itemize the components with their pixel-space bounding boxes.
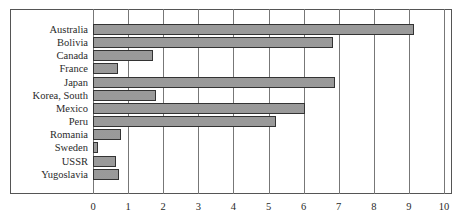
category-label: Bolivia xyxy=(57,36,88,49)
x-tick-label: 0 xyxy=(83,201,103,212)
gridline xyxy=(374,9,375,194)
bar-yugoslavia xyxy=(93,169,119,180)
category-label: Sweden xyxy=(55,141,88,154)
category-label: Canada xyxy=(57,49,89,62)
bar-france xyxy=(93,63,118,74)
x-tick-label: 8 xyxy=(364,201,384,212)
bar-bolivia xyxy=(93,37,333,48)
bar-ussr xyxy=(93,156,116,167)
x-tick-label: 10 xyxy=(434,201,454,212)
x-tick-label: 2 xyxy=(153,201,173,212)
x-tick-label: 9 xyxy=(399,201,419,212)
category-label: USSR xyxy=(62,155,88,168)
category-label: Yugoslavia xyxy=(41,168,88,181)
bar-mexico xyxy=(93,103,305,114)
x-tick-label: 1 xyxy=(118,201,138,212)
category-label: France xyxy=(59,62,88,75)
bar-canada xyxy=(93,50,153,61)
bar-australia xyxy=(93,24,414,35)
x-tick-label: 3 xyxy=(188,201,208,212)
gridline xyxy=(409,9,410,194)
x-tick-label: 4 xyxy=(223,201,243,212)
bar-korea-south xyxy=(93,90,156,101)
gridline xyxy=(339,9,340,194)
gridline xyxy=(444,9,445,194)
category-label: Mexico xyxy=(56,102,88,115)
bar-sweden xyxy=(93,142,98,153)
category-label: Japan xyxy=(64,76,88,89)
x-tick-label: 6 xyxy=(294,201,314,212)
plot-area xyxy=(93,9,444,194)
x-tick-label: 7 xyxy=(329,201,349,212)
x-tick-label: 5 xyxy=(259,201,279,212)
category-label: Korea, South xyxy=(33,89,88,102)
bar-japan xyxy=(93,77,335,88)
category-label: Peru xyxy=(69,115,88,128)
category-label: Romania xyxy=(50,128,88,141)
bar-peru xyxy=(93,116,276,127)
category-label: Australia xyxy=(50,23,89,36)
bar-romania xyxy=(93,129,121,140)
